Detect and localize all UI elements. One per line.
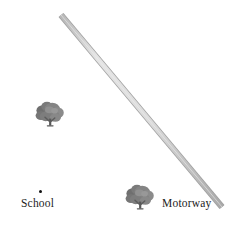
motorway-road[interactable] (61, 15, 222, 207)
school-point-marker[interactable] (39, 190, 42, 193)
motorway-label: Motorway (162, 197, 212, 210)
motorway-road-highlight (61, 15, 222, 207)
school-label: School (21, 197, 54, 210)
tree-icon (126, 185, 154, 209)
tree-icon (36, 102, 64, 126)
map-canvas: School Motorway (0, 0, 232, 233)
